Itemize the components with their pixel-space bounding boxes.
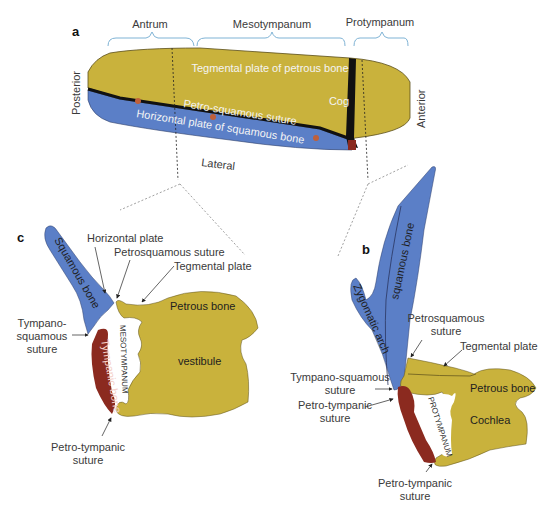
petrosquamous-c-label: Petrosquamous suture [114, 246, 225, 258]
region-antrum: Antrum [132, 18, 167, 30]
squamous-bone-c-label: Squamous bone [52, 235, 102, 310]
region-mesotympanum: Mesotympanum [233, 18, 311, 30]
suture-dot [135, 98, 141, 104]
panel-c-letter: c [17, 230, 24, 245]
tegmental-b-label: Tegmental plate [460, 340, 538, 352]
petrotympanic-b-label-1: Petro-tympanic [298, 399, 372, 411]
posterior-label: Posterior [70, 71, 82, 115]
tympano-c-label-2: squamous [17, 330, 68, 342]
anatomy-figure: a Antrum Mesotympanum Protympanum Tegmen… [0, 0, 550, 513]
tympano-c-label-1: Tympano- [18, 317, 67, 329]
horizontal-plate-c-label: Horizontal plate [87, 232, 163, 244]
tegmental-label: Tegmental plate of petrous bone [191, 62, 348, 74]
region-braces [108, 32, 408, 46]
petrotympanic-b2-label-2: suture [400, 490, 431, 502]
tympanosquamous-b-label-1: Tympano-squamous [290, 371, 390, 383]
cochlea-label: Cochlea [470, 414, 511, 426]
suture-dot [313, 135, 319, 141]
petrosquamous-b-label-1: Petrosquamous [407, 312, 485, 324]
tympanosquamous-b-label-2: suture [325, 384, 356, 396]
panel-c: c Squamous bone Tympanic bone MESOTYMPAN… [17, 226, 258, 466]
petrous-bone-c-label: Petrous bone [170, 300, 235, 312]
petrosquamous-b-label-2: suture [431, 325, 462, 337]
tympanic-fragment [348, 140, 356, 150]
cog-label: Cog [329, 95, 349, 107]
lateral-label: Lateral [201, 156, 236, 172]
petrotympanic-b2-label-1: Petro-tympanic [378, 477, 452, 489]
tympano-c-label-3: suture [27, 343, 58, 355]
petrous-bone-b-label: Petrous bone [470, 382, 535, 394]
panel-a-letter: a [72, 24, 80, 39]
petrotympanic-c-label-2: suture [73, 454, 104, 466]
panel-b-letter: b [362, 242, 370, 257]
region-protympanum: Protympanum [346, 16, 414, 28]
anterior-label: Anterior [415, 89, 427, 128]
panel-b: b squamous bone Zygomatic arch PROTYMPAN… [290, 167, 538, 502]
vestibule-label: vestibule [178, 355, 221, 367]
petrotympanic-b-label-2: suture [320, 412, 351, 424]
tegmental-c-label: Tegmental plate [174, 260, 252, 272]
panel-a: a Antrum Mesotympanum Protympanum Tegmen… [70, 16, 427, 180]
petrotympanic-c-label-1: Petro-tympanic [51, 441, 125, 453]
